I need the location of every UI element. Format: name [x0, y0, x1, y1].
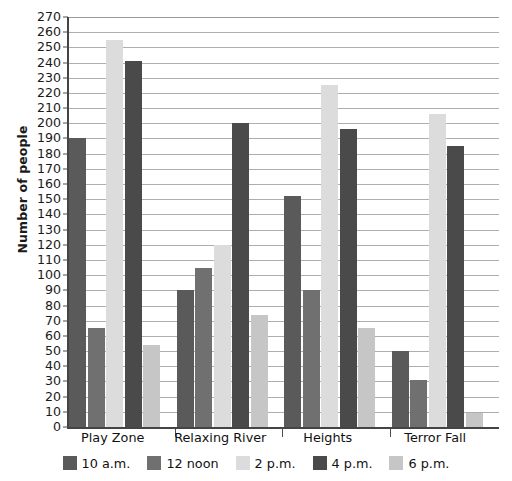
y-tick-mark	[63, 290, 68, 291]
chart-legend: 10 a.m.12 noon2 p.m.4 p.m.6 p.m.	[0, 452, 512, 474]
y-tick-mark	[63, 47, 68, 48]
y-tick-label: 60	[28, 330, 61, 343]
y-tick-mark	[63, 123, 68, 124]
bar	[410, 380, 427, 427]
bar	[340, 129, 357, 427]
y-tick-label: 200	[28, 117, 61, 130]
bar	[284, 196, 301, 427]
y-tick-label: 120	[28, 238, 61, 251]
x-category-label: Play Zone	[81, 430, 144, 445]
y-tick-label: 130	[28, 223, 61, 236]
bar	[177, 290, 194, 427]
bar	[358, 328, 375, 427]
plot-area	[67, 17, 499, 429]
bar	[125, 61, 142, 427]
bar	[88, 328, 105, 427]
y-tick-mark	[63, 427, 68, 428]
y-tick-label: 190	[28, 132, 61, 145]
y-tick-mark	[63, 168, 68, 169]
y-tick-label: 30	[28, 375, 61, 388]
bar	[214, 245, 231, 427]
bar	[429, 114, 446, 427]
y-tick-label: 20	[28, 390, 61, 403]
bar	[251, 315, 268, 427]
y-tick-label: 260	[28, 26, 61, 39]
bar	[321, 85, 338, 427]
legend-swatch	[313, 456, 327, 470]
y-tick-label: 10	[28, 406, 61, 419]
y-tick-mark	[63, 62, 68, 63]
y-tick-mark	[63, 32, 68, 33]
y-tick-mark	[63, 214, 68, 215]
y-tick-label: 210	[28, 102, 61, 115]
y-tick-mark	[63, 411, 68, 412]
legend-item: 6 p.m.	[389, 456, 449, 471]
bar-chart: Number of people 27026025024023022021020…	[0, 0, 512, 481]
y-axis-tick-labels: 2702602502402302202102001901801701601501…	[28, 0, 61, 440]
y-tick-label: 100	[28, 269, 61, 282]
y-tick-label: 80	[28, 299, 61, 312]
y-tick-mark	[63, 259, 68, 260]
y-tick-label: 140	[28, 208, 61, 221]
y-tick-mark	[63, 320, 68, 321]
legend-label: 2 p.m.	[255, 456, 296, 471]
bar-group	[177, 17, 285, 427]
y-tick-mark	[63, 305, 68, 306]
bar-groups	[69, 17, 499, 427]
y-tick-mark	[63, 381, 68, 382]
legend-swatch	[63, 456, 77, 470]
bar-group	[69, 17, 177, 427]
bar	[392, 351, 409, 427]
y-tick-label: 170	[28, 163, 61, 176]
y-tick-label: 90	[28, 284, 61, 297]
bar	[195, 268, 212, 427]
bar	[232, 123, 249, 427]
x-axis-category-labels: Play ZoneRelaxing RiverHeightsTerror Fal…	[67, 430, 497, 450]
y-tick-mark	[63, 153, 68, 154]
y-tick-label: 250	[28, 41, 61, 54]
legend-swatch	[389, 456, 403, 470]
y-tick-label: 70	[28, 314, 61, 327]
y-tick-mark	[63, 275, 68, 276]
x-category-label: Terror Fall	[404, 430, 466, 445]
legend-swatch	[236, 456, 250, 470]
bar	[303, 290, 320, 427]
legend-label: 12 noon	[166, 456, 218, 471]
x-category-label: Heights	[303, 430, 352, 445]
y-tick-mark	[63, 229, 68, 230]
y-tick-label: 240	[28, 56, 61, 69]
y-tick-mark	[63, 396, 68, 397]
y-tick-label: 270	[28, 11, 61, 24]
bar-group	[392, 17, 500, 427]
y-tick-label: 220	[28, 87, 61, 100]
y-tick-label: 150	[28, 193, 61, 206]
bar-group	[284, 17, 392, 427]
y-tick-mark	[63, 199, 68, 200]
y-tick-mark	[63, 335, 68, 336]
y-tick-mark	[63, 244, 68, 245]
y-tick-label: 40	[28, 360, 61, 373]
y-tick-label: 110	[28, 254, 61, 267]
y-tick-mark	[63, 351, 68, 352]
legend-item: 10 a.m.	[63, 456, 131, 471]
y-tick-label: 160	[28, 178, 61, 191]
x-category-label: Relaxing River	[174, 430, 266, 445]
y-tick-mark	[63, 17, 68, 18]
y-tick-mark	[63, 184, 68, 185]
legend-label: 4 p.m.	[332, 456, 373, 471]
y-tick-label: 230	[28, 71, 61, 84]
legend-swatch	[147, 456, 161, 470]
bar	[106, 40, 123, 427]
legend-label: 6 p.m.	[408, 456, 449, 471]
bar	[466, 413, 483, 427]
y-tick-mark	[63, 138, 68, 139]
legend-item: 12 noon	[147, 456, 218, 471]
y-tick-label: 180	[28, 147, 61, 160]
legend-item: 2 p.m.	[236, 456, 296, 471]
bar	[143, 345, 160, 427]
bar	[69, 138, 86, 427]
y-tick-mark	[63, 92, 68, 93]
y-tick-mark	[63, 77, 68, 78]
bar	[447, 146, 464, 427]
y-tick-label: 50	[28, 345, 61, 358]
